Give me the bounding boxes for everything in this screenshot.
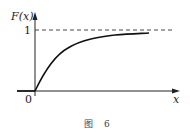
y-tick-1: 1 <box>24 24 31 37</box>
cdf-figure: F(x) 1 0 x 图 6 <box>0 0 190 140</box>
y-axis-label: F(x) <box>10 10 33 23</box>
x-axis-label: x <box>173 93 180 106</box>
cdf-curve <box>35 33 149 91</box>
caption-char: 图 <box>84 119 93 129</box>
origin-label: 0 <box>25 93 32 106</box>
caption-number: 6 <box>104 119 110 129</box>
